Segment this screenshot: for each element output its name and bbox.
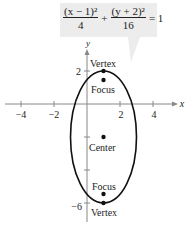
y-axis-label: y <box>85 38 90 48</box>
numerator-1: (x − 1)² <box>63 5 98 18</box>
x-axis-label: x <box>179 98 185 109</box>
equation: (x − 1)² 4 + (y + 2)² 16 = 1 <box>63 5 166 31</box>
y-axis-arrow-icon <box>85 49 90 55</box>
plus-sign: + <box>101 12 107 24</box>
x-tick-label: −2 <box>49 109 60 120</box>
center-point <box>101 135 105 139</box>
fraction-1: (x − 1)² 4 <box>63 5 98 31</box>
x-tick-label: 4 <box>152 109 157 120</box>
vertex-top-label: Vertex <box>90 58 116 69</box>
denominator-1: 4 <box>78 18 84 31</box>
x-axis-arrow-icon <box>172 102 178 107</box>
numerator-2: (y + 2)² <box>111 5 146 18</box>
focus-top-label: Focus <box>91 84 115 95</box>
x-tick-label: 2 <box>119 109 124 120</box>
equals-one: = 1 <box>149 12 163 24</box>
vertex-top-point <box>101 69 105 73</box>
fraction-2: (y + 2)² 16 <box>111 5 146 31</box>
center-label: Center <box>89 142 116 153</box>
y-tick-label: 2 <box>76 66 81 77</box>
focus-bottom-label: Focus <box>92 181 116 192</box>
focus-top-point <box>101 78 105 82</box>
x-tick-label: −4 <box>16 109 27 120</box>
y-tick-label: −6 <box>71 201 82 212</box>
denominator-2: 16 <box>123 18 134 31</box>
callout-pointer <box>128 37 140 62</box>
focus-bottom-point <box>101 192 105 196</box>
vertex-bottom-label: Vertex <box>91 207 117 218</box>
vertex-bottom-point <box>101 201 105 205</box>
ellipse-plot: −4 −2 2 4 2 −6 x y Vertex Focus Center F… <box>0 0 189 232</box>
